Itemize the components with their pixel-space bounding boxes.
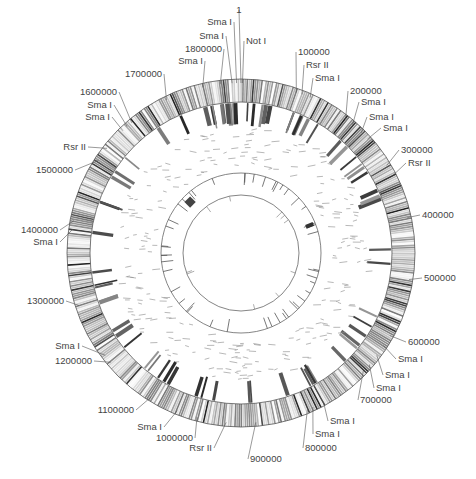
position-label: Sma I bbox=[330, 415, 355, 426]
position-label: 1600000 bbox=[80, 86, 117, 97]
position-label: 1200000 bbox=[55, 355, 92, 366]
gene-ticks-ring bbox=[92, 103, 391, 403]
position-label: 1400000 bbox=[21, 224, 58, 235]
position-label: 700000 bbox=[360, 394, 392, 405]
position-label: 1300000 bbox=[27, 295, 64, 306]
position-label: Not I bbox=[246, 35, 266, 46]
position-label: Sma I bbox=[87, 99, 112, 110]
position-label: Sma I bbox=[178, 55, 203, 66]
position-label: Sma I bbox=[315, 72, 340, 83]
genome-circular-map: 1Sma ISma INot I1800000Sma I170000010000… bbox=[0, 0, 476, 479]
position-label: Sma I bbox=[85, 111, 110, 122]
position-label: 1100000 bbox=[98, 404, 134, 415]
position-label: Sma I bbox=[376, 382, 401, 393]
position-label: 600000 bbox=[408, 336, 440, 347]
position-label: 300000 bbox=[401, 144, 433, 155]
position-label: Sma I bbox=[385, 369, 410, 380]
position-label: Rsr II bbox=[189, 442, 212, 453]
position-label: Sma I bbox=[207, 16, 232, 27]
position-label: 1 bbox=[236, 4, 241, 15]
position-label: Rsr II bbox=[63, 141, 86, 152]
position-label: 200000 bbox=[350, 85, 382, 96]
position-label: 800000 bbox=[305, 442, 337, 453]
position-label: Sma I bbox=[137, 421, 162, 432]
position-label: 1700000 bbox=[125, 68, 162, 79]
position-label: 1500000 bbox=[36, 164, 73, 175]
position-label: 900000 bbox=[250, 453, 282, 464]
position-label: 100000 bbox=[298, 46, 330, 57]
position-label: 400000 bbox=[422, 209, 454, 220]
middle-circle bbox=[161, 173, 321, 333]
position-label: 1800000 bbox=[185, 43, 222, 54]
feature-annotations bbox=[119, 129, 373, 379]
position-label: Rsr II bbox=[408, 157, 431, 168]
position-label: Sma I bbox=[199, 30, 224, 41]
inner-ticks bbox=[161, 173, 319, 332]
position-label: Sma I bbox=[398, 353, 423, 364]
position-label: Rsr II bbox=[306, 59, 329, 70]
position-label: Sma I bbox=[315, 428, 340, 439]
position-label: Sma I bbox=[361, 96, 386, 107]
position-label: 500000 bbox=[424, 272, 456, 283]
position-label: Sma I bbox=[383, 122, 408, 133]
position-label: 1000000 bbox=[156, 432, 193, 443]
position-label: Sma I bbox=[33, 236, 58, 247]
position-label: Sma I bbox=[369, 111, 394, 122]
position-label: Sma I bbox=[55, 340, 80, 351]
